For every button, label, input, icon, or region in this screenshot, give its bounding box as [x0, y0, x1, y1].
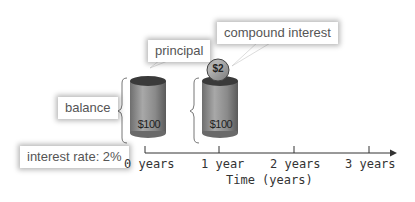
interest-rate-callout: interest rate: 2%	[20, 146, 129, 168]
balance-callout: balance	[58, 97, 118, 119]
tick-label-1: 1 year	[201, 157, 244, 171]
coin-label: $2	[207, 63, 229, 74]
brace-year-1	[190, 78, 199, 143]
compound-callout-tail	[232, 42, 272, 66]
brace-year-0	[118, 78, 127, 143]
tick-label-2: 2 years	[270, 157, 321, 171]
compound-interest-callout: compound interest	[217, 22, 338, 44]
tick-label-0: 0 years	[124, 157, 175, 171]
cylinder-1-label: $100	[203, 118, 239, 130]
principal-callout: principal	[148, 40, 210, 62]
axis-title: Time (years)	[226, 173, 313, 187]
tick-label-3: 3 years	[345, 157, 396, 171]
cylinder-0-label: $100	[131, 118, 167, 130]
axis-arrow-icon	[390, 150, 397, 157]
